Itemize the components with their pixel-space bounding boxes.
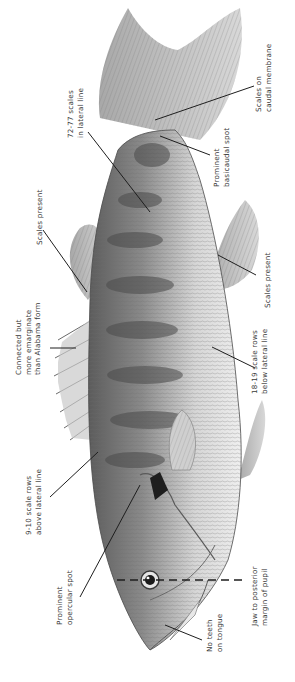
pelvic-fin [238, 400, 265, 480]
label-dorsal-scales-present: Scales present [35, 190, 45, 246]
label-tongue-teeth: No teeth on tongue [205, 614, 224, 652]
label-caudal-membrane: Scales on caudal membrane [254, 44, 273, 112]
label-jaw-pupil: Jaw to posterior margin of pupil [250, 566, 269, 626]
label-above-lateral-line: 9-10 scale rows above lateral line [24, 469, 43, 535]
label-basicaudal-spot: Prominent basicaudal spot [212, 128, 231, 187]
caudal-fin [99, 8, 242, 140]
fish-body [89, 130, 242, 650]
label-dorsal-connection: Connected but more emarginate than Alaba… [14, 302, 43, 375]
label-below-lateral-line: 18-19 scale rows below lateral line [250, 329, 269, 394]
label-anal-scales-present: Scales present [263, 253, 273, 309]
spiny-dorsal-fin [54, 318, 92, 440]
label-lateral-line-scales: 72-77 scales in lateral line [66, 88, 85, 138]
fish-diagram: Scales on caudal membrane Prominent basi… [0, 0, 295, 682]
label-opercular-spot: Prominent opercular spot [55, 570, 74, 625]
